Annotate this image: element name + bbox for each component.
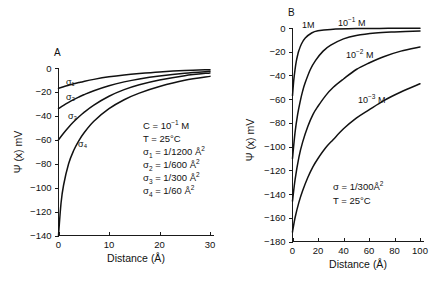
x-tick-label: 0 (56, 239, 61, 250)
y-tick-label: 0 (46, 63, 51, 74)
data-curve-1 (293, 28, 421, 95)
curve-label-10-3m: 10−3 M (358, 93, 385, 105)
annot-temperature: T = 25°C (143, 133, 181, 144)
panel-b-y-axis-title: Ψ (x) mV (244, 119, 256, 162)
panel-a-y-ticks: 0−20−40−60−80−100−120−140 (30, 63, 58, 242)
panel-b-svg: 0−20−40−60−80−100−120−140−160−180 020406… (228, 0, 439, 284)
y-tick-label: −180 (264, 236, 285, 247)
x-tick-label: 10 (104, 239, 115, 250)
data-curve-3 (293, 47, 421, 201)
annot-sigma1: σ1 = 1/1200 Å2 (143, 145, 205, 159)
curve-label-1m: 1M (302, 20, 315, 30)
y-tick-label: −120 (264, 165, 285, 176)
data-curve-2 (59, 71, 211, 108)
annot-sigma4: σ4 = 1/60 Å2 (143, 184, 195, 198)
y-tick-label: −80 (269, 117, 285, 128)
panel-b-annotation: σ = 1/300Å2 T = 25°C (333, 180, 384, 206)
y-tick-label: −40 (269, 70, 285, 81)
y-tick-label: −140 (264, 189, 285, 200)
annot-concentration: C = 10−1 M (143, 119, 189, 131)
y-tick-label: −120 (30, 206, 51, 217)
y-tick-label: −20 (269, 46, 285, 57)
x-tick-label: 20 (313, 245, 324, 256)
x-tick-label: 100 (412, 245, 428, 256)
x-tick-label: 30 (205, 239, 216, 250)
panel-b-letter: B (288, 7, 295, 18)
curve-label-10-1m: 10−1 M (338, 16, 365, 28)
curve-label-sigma3: σ₃ (68, 111, 78, 121)
x-tick-label: 40 (338, 245, 349, 256)
panel-b-x-ticks: 020406080100 (290, 238, 428, 256)
x-tick-label: 0 (290, 245, 295, 256)
y-tick-label: −40 (35, 110, 51, 121)
panel-a-annotation: C = 10−1 M T = 25°C σ1 = 1/1200 Å2 σ2 = … (143, 119, 205, 198)
y-tick-label: −20 (35, 86, 51, 97)
panel-a-x-ticks: 0102030 (56, 232, 215, 250)
annot-b-sigma: σ = 1/300Å2 (333, 180, 384, 192)
x-tick-label: 80 (389, 245, 400, 256)
annot-sigma2: σ2 = 1/600 Å2 (143, 158, 200, 172)
annot-b-temperature: T = 25°C (333, 195, 371, 206)
y-tick-label: 0 (280, 23, 285, 34)
panel-b-plot: 0−20−40−60−80−100−120−140−160−180 020406… (228, 0, 439, 284)
x-tick-label: 60 (364, 245, 375, 256)
panel-b-x-axis-title: Distance (Å) (329, 258, 387, 270)
y-tick-label: −160 (264, 212, 285, 223)
panel-a-plot: 0−20−40−60−80−100−120−140 0102030 A Dist… (0, 0, 228, 284)
y-tick-label: −60 (269, 94, 285, 105)
scientific-figure: 0−20−40−60−80−100−120−140 0102030 A Dist… (0, 0, 439, 284)
curve-label-sigma4: σ₄ (78, 139, 88, 149)
panel-b-y-ticks: 0−20−40−60−80−100−120−140−160−180 (264, 23, 292, 248)
x-tick-label: 20 (154, 239, 165, 250)
annot-sigma3: σ3 = 1/300 Å2 (143, 171, 200, 185)
panel-b-axes (293, 28, 425, 242)
curve-label-sigma1: σ₁ (66, 77, 75, 87)
y-tick-label: −60 (35, 134, 51, 145)
y-tick-label: −80 (35, 158, 51, 169)
panel-a-x-axis-title: Distance (Å) (107, 252, 165, 264)
y-tick-label: −100 (264, 141, 285, 152)
data-curve-4 (293, 84, 421, 232)
panel-a-y-axis-title: Ψ (x) mV (12, 131, 24, 174)
y-tick-label: −100 (30, 182, 51, 193)
y-tick-label: −140 (30, 230, 51, 241)
curve-label-sigma2: σ₂ (66, 92, 76, 102)
panel-a-svg: 0−20−40−60−80−100−120−140 0102030 A Dist… (0, 0, 228, 284)
curve-label-10-2m: 10−2 M (346, 48, 373, 60)
panel-a-letter: A (54, 47, 61, 58)
